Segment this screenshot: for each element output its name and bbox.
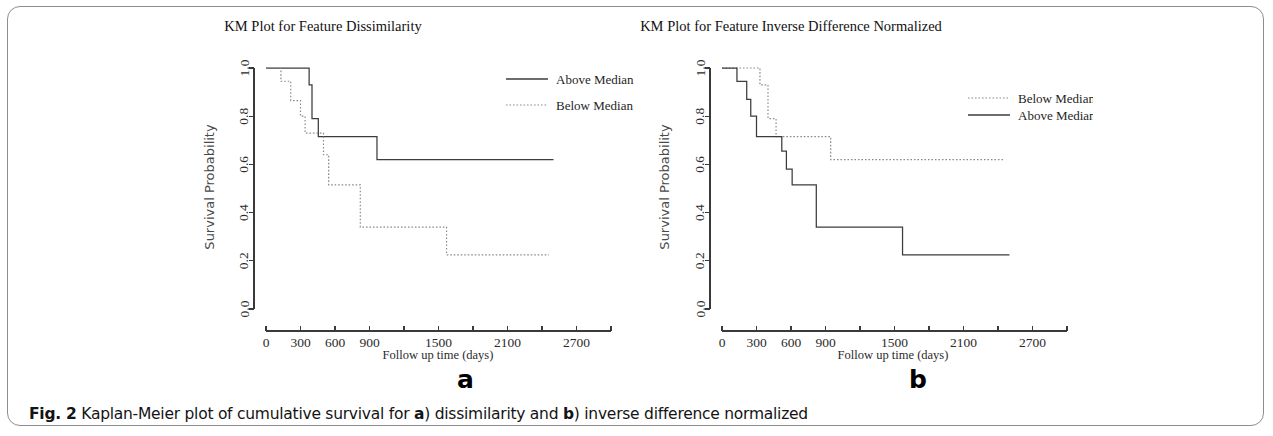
km-plot-inverse-difference-normalized: KM Plot for Feature Inverse Difference N… <box>463 7 1093 397</box>
caption-text-1: Kaplan-Meier plot of cumulative survival… <box>77 405 414 423</box>
caption-ref-b: b <box>563 405 574 423</box>
caption-text-2: ) dissimilarity and <box>424 405 563 423</box>
panel-b-inverse-difference-normalized: KM Plot for Feature Inverse Difference N… <box>463 7 1093 397</box>
legend-label: Above Median <box>1018 108 1093 123</box>
x-tick-label: 2700 <box>1019 335 1046 350</box>
y-tick-label: 0.6 <box>237 156 252 173</box>
y-tick-label: 0.4 <box>693 204 708 221</box>
y-tick-label: 0.0 <box>693 300 708 317</box>
plot-title: KM Plot for Feature Inverse Difference N… <box>640 18 942 34</box>
x-tick-label: 900 <box>815 335 836 350</box>
caption-figure-label: Fig. 2 <box>29 405 77 423</box>
y-tick-label: 0.8 <box>693 108 708 125</box>
y-tick-label: 0.2 <box>693 252 708 269</box>
survival-curve-above-median <box>722 68 1010 255</box>
y-tick-label: 0.2 <box>237 252 252 269</box>
x-tick-label: 0 <box>719 335 726 350</box>
y-tick-label: 0.6 <box>693 156 708 173</box>
legend-label: Below Median <box>1018 91 1093 106</box>
y-tick-label: 0.4 <box>237 204 252 221</box>
x-tick-label: 0 <box>263 335 270 350</box>
figure-frame: KM Plot for Feature Dissimilarity Surviv… <box>7 6 1264 426</box>
x-axis-title: Follow up time (days) <box>838 348 949 362</box>
y-tick-label: 0.8 <box>237 108 252 125</box>
panel-letter-a: a <box>457 367 474 392</box>
x-tick-label: 300 <box>290 335 311 350</box>
caption-ref-a: a <box>414 405 424 423</box>
x-tick-label: 600 <box>781 335 802 350</box>
x-tick-label: 1500 <box>881 335 908 350</box>
x-tick-label: 900 <box>359 335 380 350</box>
survival-curves <box>722 68 1010 255</box>
y-tick-label: 1.0 <box>237 59 252 76</box>
legend: Below MedianAbove Median <box>968 91 1093 123</box>
y-tick-label: 1.0 <box>693 59 708 76</box>
x-tick-label: 600 <box>325 335 346 350</box>
y-axis-title: Survival Probability <box>657 124 672 250</box>
axes: 0.00.20.40.60.81.00300600900150021002700 <box>693 59 1068 350</box>
panel-letter-b: b <box>909 367 927 392</box>
survival-curve-below-median <box>722 68 1005 160</box>
x-tick-label: 1500 <box>425 335 452 350</box>
y-axis-title: Survival Probability <box>202 124 217 250</box>
y-tick-label: 0.0 <box>237 300 252 317</box>
x-tick-label: 2100 <box>950 335 977 350</box>
plot-title: KM Plot for Feature Dissimilarity <box>224 18 422 34</box>
caption-text-3: ) inverse difference normalized <box>574 405 808 423</box>
x-tick-label: 300 <box>746 335 767 350</box>
figure-caption: Fig. 2 Kaplan-Meier plot of cumulative s… <box>29 405 1239 423</box>
